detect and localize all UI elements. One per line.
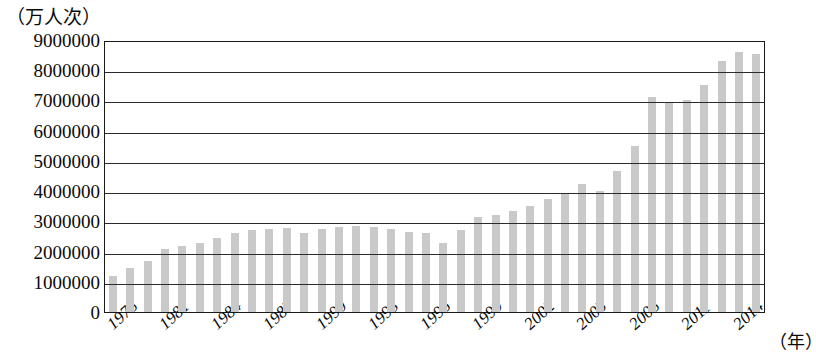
bar — [352, 226, 360, 312]
bar — [213, 238, 221, 312]
bar — [613, 171, 621, 312]
bar — [265, 229, 273, 312]
bar — [752, 54, 760, 312]
bar — [178, 246, 186, 312]
bar — [683, 100, 691, 312]
x-axis-unit-label: （年） — [769, 327, 816, 353]
bar — [631, 146, 639, 312]
bar — [109, 276, 117, 312]
bar — [700, 85, 708, 312]
bar — [474, 217, 482, 312]
bar — [509, 211, 517, 312]
bar — [231, 233, 239, 312]
bar — [578, 184, 586, 312]
bar — [126, 268, 134, 312]
bar — [283, 228, 291, 312]
bar — [248, 230, 256, 312]
bar — [665, 103, 673, 312]
bar — [422, 233, 430, 312]
bar — [370, 227, 378, 312]
bar — [718, 61, 726, 312]
bar — [318, 229, 326, 312]
bar — [335, 227, 343, 312]
bar — [544, 199, 552, 312]
bar — [492, 215, 500, 312]
bar-series — [105, 42, 764, 312]
bar — [561, 194, 569, 312]
bar — [387, 229, 395, 312]
bar — [161, 249, 169, 312]
bar — [439, 243, 447, 313]
bar — [405, 232, 413, 312]
bar — [196, 243, 204, 313]
bar — [526, 206, 534, 312]
plot-area — [104, 41, 765, 313]
bar — [457, 230, 465, 312]
bar — [144, 261, 152, 312]
bar — [300, 233, 308, 312]
bar — [735, 52, 743, 312]
bar — [596, 191, 604, 312]
bar — [648, 97, 656, 312]
